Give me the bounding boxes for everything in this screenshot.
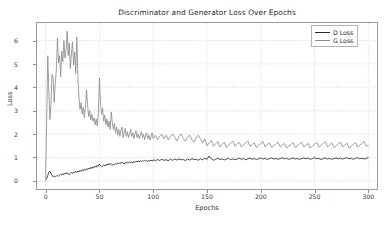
- x-tick-label: 100: [143, 193, 163, 200]
- y-tick-label: 1: [4, 154, 18, 161]
- legend-label-g-loss: G Loss: [333, 37, 353, 44]
- x-axis-label: Epochs: [36, 204, 378, 212]
- plot-area: [36, 22, 378, 190]
- y-tick-label: 4: [4, 84, 18, 91]
- y-tick-label: 5: [4, 61, 18, 68]
- y-tick-label: 2: [4, 131, 18, 138]
- y-tick-mark: [33, 134, 36, 135]
- x-tick-label: 200: [251, 193, 271, 200]
- y-tick-mark: [33, 157, 36, 158]
- legend-item[interactable]: G Loss: [315, 36, 353, 44]
- y-tick-mark: [33, 41, 36, 42]
- plot-svg: [37, 23, 377, 189]
- y-tick-mark: [33, 64, 36, 65]
- x-tick-label: 150: [197, 193, 217, 200]
- legend-box: D Loss G Loss: [311, 25, 358, 47]
- y-tick-mark: [33, 111, 36, 112]
- y-tick-label: 3: [4, 107, 18, 114]
- legend-item[interactable]: D Loss: [315, 28, 353, 36]
- series-lines: [46, 31, 369, 180]
- x-tick-label: 300: [358, 193, 378, 200]
- legend-swatch-g-loss: [315, 40, 330, 41]
- x-tick-label: 50: [89, 193, 109, 200]
- y-tick-label: 0: [4, 177, 18, 184]
- x-tick-label: 250: [305, 193, 325, 200]
- legend-swatch-d-loss: [315, 32, 330, 33]
- figure-canvas: Discriminator and Generator Loss Over Ep…: [0, 0, 392, 225]
- chart-title: Discriminator and Generator Loss Over Ep…: [36, 8, 378, 17]
- y-tick-mark: [33, 87, 36, 88]
- y-axis-label: Loss: [6, 92, 14, 106]
- y-tick-mark: [33, 181, 36, 182]
- legend-label-d-loss: D Loss: [333, 29, 353, 36]
- x-tick-label: 0: [36, 193, 56, 200]
- y-tick-label: 6: [4, 37, 18, 44]
